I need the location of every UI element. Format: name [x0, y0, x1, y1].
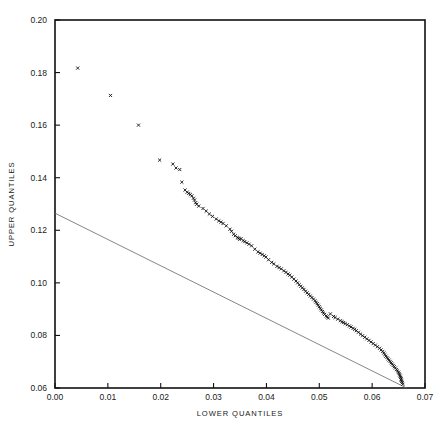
- axes-frame: [55, 20, 425, 388]
- y-tick-label: 0.10: [30, 278, 47, 288]
- y-tick-label: 0.18: [30, 68, 47, 78]
- scatter-marker: [336, 318, 339, 321]
- y-tick-label: 0.06: [30, 383, 47, 393]
- scatter-marker: [178, 168, 181, 171]
- scatter-marker: [253, 248, 256, 251]
- scatter-marker: [174, 166, 177, 169]
- data-point-markers: [76, 67, 404, 386]
- chart-figure: 0.000.010.020.030.040.050.060.07 0.060.0…: [0, 0, 444, 427]
- x-tick-label: 0.06: [364, 392, 381, 402]
- reference-line: [55, 213, 407, 388]
- scatter-marker: [109, 94, 112, 97]
- x-tick-label: 0.03: [205, 392, 222, 402]
- x-tick-label: 0.01: [100, 392, 117, 402]
- y-tick-label: 0.14: [30, 173, 47, 183]
- scatter-marker: [267, 258, 270, 261]
- x-tick-label: 0.05: [311, 392, 328, 402]
- scatter-marker: [201, 207, 204, 210]
- scatter-marker: [137, 124, 140, 127]
- y-axis-tick-labels: 0.060.080.100.120.140.160.180.20: [30, 15, 47, 393]
- y-tick-label: 0.16: [30, 120, 47, 130]
- y-tick-label: 0.08: [30, 330, 47, 340]
- scatter-marker: [180, 181, 183, 184]
- scatter-plot-svg: 0.000.010.020.030.040.050.060.07 0.060.0…: [0, 0, 444, 427]
- scatter-marker: [171, 162, 174, 165]
- scatter-marker: [225, 224, 228, 227]
- scatter-marker: [215, 217, 218, 220]
- plot-frame: [55, 20, 425, 388]
- y-axis-title: UPPER QUANTILES: [7, 162, 16, 247]
- y-tick-label: 0.12: [30, 225, 47, 235]
- scatter-marker: [329, 312, 332, 315]
- scatter-marker: [76, 67, 79, 70]
- scatter-marker: [327, 317, 330, 320]
- scatter-marker: [197, 205, 200, 208]
- y-tick-label: 0.20: [30, 15, 47, 25]
- scatter-marker: [208, 212, 211, 215]
- scatter-marker: [158, 159, 161, 162]
- x-axis-tick-labels: 0.000.010.020.030.040.050.060.07: [47, 392, 434, 402]
- x-tick-label: 0.04: [258, 392, 275, 402]
- x-tick-label: 0.02: [152, 392, 169, 402]
- x-tick-label: 0.07: [417, 392, 434, 402]
- scatter-marker: [211, 215, 214, 218]
- x-axis-title: LOWER QUANTILES: [197, 409, 284, 418]
- x-tick-label: 0.00: [47, 392, 64, 402]
- scatter-marker: [250, 244, 253, 247]
- reference-line-group: [55, 213, 407, 388]
- scatter-marker: [205, 210, 208, 213]
